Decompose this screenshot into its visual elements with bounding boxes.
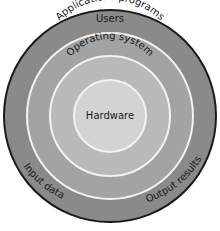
layer-diagram: Users Applications programs Operating sy…: [0, 0, 220, 231]
hardware-label: Hardware: [86, 110, 134, 121]
users-label: Users: [96, 13, 124, 24]
